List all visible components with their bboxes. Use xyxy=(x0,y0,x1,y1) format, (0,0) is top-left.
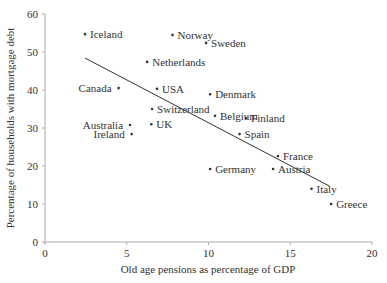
y-tick-label: 60 xyxy=(27,8,39,20)
point-label: Sweden xyxy=(211,37,246,49)
y-tick-label: 40 xyxy=(27,84,39,96)
point-label: Switzerland xyxy=(157,103,210,115)
point-marker xyxy=(214,115,217,118)
data-point-usa: USA xyxy=(156,83,184,95)
point-marker xyxy=(330,203,333,206)
data-point-germany: Germany xyxy=(209,163,257,175)
x-tick-label: 20 xyxy=(367,247,379,259)
point-label: Spain xyxy=(245,128,271,140)
data-point-norway: Norway xyxy=(171,29,213,41)
point-marker xyxy=(238,133,241,136)
data-point-finland: Finland xyxy=(245,112,285,124)
data-point-uk: UK xyxy=(150,118,172,130)
point-label: Germany xyxy=(215,163,256,175)
x-axis: 05101520 xyxy=(42,242,378,259)
point-marker xyxy=(156,88,159,91)
point-label: Greece xyxy=(336,198,367,210)
point-marker xyxy=(117,87,120,90)
x-axis-label: Old age pensions as percentage of GDP xyxy=(121,263,296,275)
point-label: Italy xyxy=(317,183,338,195)
data-point-denmark: Denmark xyxy=(209,88,257,100)
point-marker xyxy=(129,124,132,127)
point-marker xyxy=(310,188,313,191)
point-marker xyxy=(205,42,208,45)
y-tick-label: 10 xyxy=(27,198,39,210)
data-point-spain: Spain xyxy=(238,128,270,140)
y-tick-label: 0 xyxy=(33,236,39,248)
y-axis: 0102030405060 xyxy=(27,8,45,248)
data-point-france: France xyxy=(277,150,313,162)
data-point-canada: Canada xyxy=(79,82,120,94)
point-label: Netherlands xyxy=(152,56,205,68)
point-marker xyxy=(130,133,133,136)
point-marker xyxy=(151,108,154,111)
y-axis-label: Percentage of households with mortgage d… xyxy=(4,28,16,229)
y-tick-label: 50 xyxy=(27,46,39,58)
point-label: Denmark xyxy=(215,88,256,100)
data-point-switzerland: Switzerland xyxy=(151,103,210,115)
x-axis-ticks: 05101520 xyxy=(42,242,378,259)
point-marker xyxy=(150,123,153,126)
point-marker xyxy=(245,117,248,120)
x-tick-label: 5 xyxy=(124,247,130,259)
data-point-sweden: Sweden xyxy=(205,37,247,49)
data-point-ireland: Ireland xyxy=(93,128,132,140)
point-marker xyxy=(209,93,212,96)
scatter-chart: 0102030405060 05101520 IcelandNorwaySwed… xyxy=(0,0,387,283)
point-marker xyxy=(84,33,87,36)
point-label: USA xyxy=(162,83,184,95)
data-point-iceland: Iceland xyxy=(84,28,123,40)
data-point-italy: Italy xyxy=(310,183,337,195)
point-label: France xyxy=(283,150,313,162)
point-marker xyxy=(209,168,212,171)
point-label: UK xyxy=(156,118,172,130)
y-tick-label: 20 xyxy=(27,160,39,172)
data-point-netherlands: Netherlands xyxy=(146,56,205,68)
x-tick-label: 0 xyxy=(42,247,48,259)
point-label: Ireland xyxy=(93,128,125,140)
point-marker xyxy=(146,61,149,64)
data-point-austria: Austria xyxy=(272,163,311,175)
point-label: Austria xyxy=(278,163,311,175)
point-label: Norway xyxy=(178,29,214,41)
point-label: Canada xyxy=(79,82,112,94)
point-marker xyxy=(277,155,280,158)
data-point-greece: Greece xyxy=(330,198,368,210)
point-label: Finland xyxy=(251,112,285,124)
x-tick-label: 15 xyxy=(285,247,297,259)
point-marker xyxy=(171,34,174,37)
x-tick-label: 10 xyxy=(203,247,215,259)
point-marker xyxy=(272,168,275,171)
data-points: IcelandNorwaySwedenNetherlandsCanadaUSAS… xyxy=(79,28,368,210)
y-tick-label: 30 xyxy=(27,122,39,134)
y-axis-ticks: 0102030405060 xyxy=(27,8,45,248)
point-label: Iceland xyxy=(90,28,123,40)
